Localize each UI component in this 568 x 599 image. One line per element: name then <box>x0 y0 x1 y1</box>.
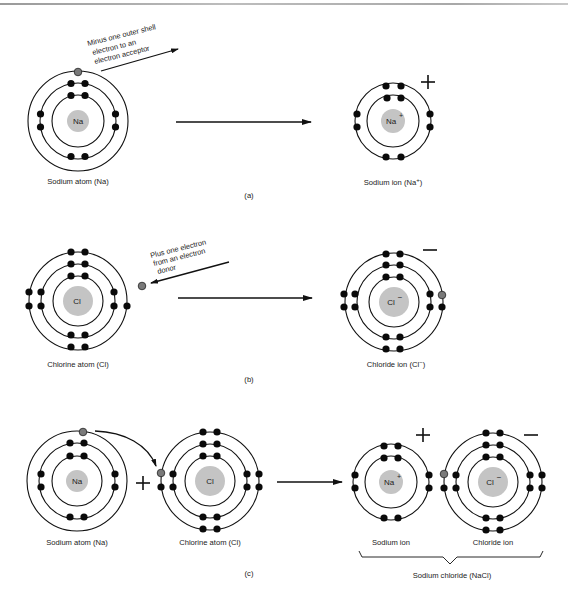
chloride-ion-caption: Chloride ion <box>473 538 514 547</box>
sodium-ion: Na + <box>351 442 432 521</box>
svg-text:−: − <box>398 293 403 302</box>
nucleus-symbol: Cl <box>387 298 395 307</box>
sodium-ion-caption: Sodium ion <box>372 538 410 547</box>
panel-c: Na Cl <box>27 428 546 580</box>
chlorine-atom: Cl <box>157 428 262 532</box>
transferred-electron <box>79 428 87 436</box>
received-electron <box>157 469 165 477</box>
panel-b: Cl Plus one electron from an electron do… <box>25 237 445 384</box>
svg-text:Na: Na <box>384 478 395 487</box>
nucleus-symbol: Na <box>73 117 84 126</box>
nucleus-symbol: Na <box>386 117 397 126</box>
panel-label-c: (c) <box>245 569 254 578</box>
chloride-ion: Cl − <box>440 429 545 533</box>
svg-text:Na: Na <box>72 477 83 486</box>
chlorine-atom: Cl <box>25 248 130 350</box>
chloride-ion-caption: Chloride ion (Cl−) <box>367 359 426 369</box>
sodium-atom: Na <box>28 68 128 171</box>
gained-electron <box>438 291 446 299</box>
panel-label-a: (a) <box>244 191 254 200</box>
svg-text:Cl: Cl <box>486 478 494 487</box>
svg-text:Cl: Cl <box>206 477 214 486</box>
svg-text:+: + <box>397 473 401 480</box>
transferred-electron <box>74 68 82 76</box>
svg-text:+: + <box>399 112 403 119</box>
plus-operator <box>136 476 150 490</box>
nucleus-symbol: Cl <box>73 297 81 306</box>
chlorine-atom-caption: Chlorine atom (Cl) <box>47 360 109 369</box>
incoming-electron <box>138 282 146 290</box>
sodium-chloride-caption: Sodium chloride (NaCl) <box>413 571 492 580</box>
ionic-bond-diagram: Na Minus one outer shell electron to an … <box>0 0 568 599</box>
positive-charge-sign <box>416 428 430 442</box>
sodium-atom-caption: Sodium atom (Na) <box>46 538 108 547</box>
svg-text:−: − <box>497 473 502 482</box>
chloride-ion: Cl − <box>340 250 445 352</box>
panel-label-b: (b) <box>244 375 254 384</box>
sodium-atom-caption: Sodium atom (Na) <box>47 177 109 186</box>
gained-electron <box>440 470 448 478</box>
sodium-ion: Na + <box>353 82 433 160</box>
panel-a: Na Minus one outer shell electron to an … <box>28 22 435 200</box>
chlorine-atom-caption: Chlorine atom (Cl) <box>179 538 241 547</box>
sodium-atom: Na <box>27 428 127 531</box>
positive-charge-sign <box>421 75 435 89</box>
sodium-ion-caption: Sodium ion (Na+) <box>364 177 423 187</box>
transfer-arrow <box>95 431 156 466</box>
product-brace <box>359 551 543 564</box>
